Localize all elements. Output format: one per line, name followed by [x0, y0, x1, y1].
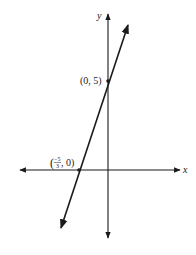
x-intercept-numerator: −5 [54, 156, 60, 162]
graph-canvas: x y (0, 5) ( −5 3 , 0) [0, 0, 196, 255]
x-axis-label: x [182, 164, 188, 175]
plotted-line [61, 25, 128, 228]
x-intercept-point [77, 168, 81, 172]
x-intercept-denominator: 3 [56, 163, 59, 169]
x-intercept-label: ( −5 3 , 0) [50, 156, 74, 170]
y-intercept-point [106, 79, 110, 83]
x-intercept-rest: , 0) [61, 157, 74, 169]
y-axis-label: y [96, 10, 102, 21]
line-graph-figure: x y (0, 5) ( −5 3 , 0) [0, 0, 196, 255]
y-intercept-label: (0, 5) [80, 75, 102, 87]
